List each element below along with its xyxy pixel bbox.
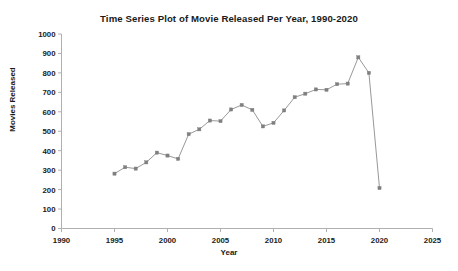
y-tick-label: 900 (42, 49, 56, 58)
x-tick-label: 2025 (424, 236, 442, 245)
y-tick-label: 700 (42, 88, 56, 97)
data-point-marker (325, 88, 328, 91)
y-tick-label: 400 (42, 147, 56, 156)
data-point-marker (124, 166, 127, 169)
x-tick-label: 2020 (371, 236, 389, 245)
data-point-marker (251, 108, 254, 111)
series-line (115, 57, 380, 188)
data-point-marker (304, 92, 307, 95)
data-point-marker (219, 120, 222, 123)
x-tick-label: 2015 (318, 236, 336, 245)
data-point-marker (261, 125, 264, 128)
data-point-marker (198, 128, 201, 131)
data-series-movies-released (113, 56, 381, 190)
data-point-marker (314, 88, 317, 91)
y-tick-label: 1000 (38, 30, 56, 39)
plot-area: 01002003004005006007008009001000 1990199… (0, 0, 458, 271)
data-point-marker (166, 154, 169, 157)
x-tick-label: 1990 (53, 236, 71, 245)
data-point-marker (346, 82, 349, 85)
data-point-marker (293, 96, 296, 99)
y-tick-label: 800 (42, 69, 56, 78)
x-tick-label: 2005 (212, 236, 230, 245)
x-tick-label: 2010 (265, 236, 283, 245)
data-point-marker (230, 108, 233, 111)
data-point-marker (240, 103, 243, 106)
data-point-marker (272, 121, 275, 124)
chart-figure: Time Series Plot of Movie Released Per Y… (0, 0, 458, 271)
y-tick-label: 500 (42, 127, 56, 136)
data-point-marker (378, 186, 381, 189)
data-point-marker (336, 83, 339, 86)
data-point-marker (113, 172, 116, 175)
y-tick-label: 0 (51, 224, 56, 233)
data-point-marker (208, 119, 211, 122)
data-point-marker (283, 109, 286, 112)
y-tick-label: 100 (42, 205, 56, 214)
data-point-marker (155, 151, 158, 154)
data-point-marker (145, 161, 148, 164)
data-point-marker (134, 167, 137, 170)
data-point-marker (177, 157, 180, 160)
y-tick-label: 300 (42, 166, 56, 175)
y-tick-label: 200 (42, 186, 56, 195)
x-axis: 19901995200020052010201520202025 (53, 229, 442, 245)
x-tick-label: 2000 (159, 236, 177, 245)
y-tick-label: 600 (42, 108, 56, 117)
data-point-marker (357, 56, 360, 59)
x-tick-label: 1995 (106, 236, 124, 245)
y-axis: 01002003004005006007008009001000 (38, 30, 61, 234)
data-point-marker (187, 133, 190, 136)
data-point-marker (367, 71, 370, 74)
